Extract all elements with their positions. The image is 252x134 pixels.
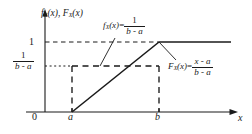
cdf-fn-argument: (x): [177, 61, 187, 71]
pdf-fn-argument: (x): [109, 20, 119, 30]
cdf-formula-annotation: FX(x)= x - a b - a: [168, 57, 213, 77]
pdf-fraction: 1 b - a: [124, 16, 145, 36]
pdf-formula-annotation: fX(x)= 1 b - a: [103, 16, 145, 36]
x-tick-label-b: b: [155, 112, 160, 122]
y-axis-title-f-arg: (x): [47, 8, 58, 18]
pdf-fraction-denominator: b - a: [124, 26, 145, 37]
pdf-formula-lhs: fX(x)=: [103, 21, 124, 31]
cdf-fn-name: F: [168, 61, 174, 71]
cdf-formula-lhs: FX(x)=: [168, 62, 192, 72]
y-tick-label-one: 1: [29, 37, 34, 47]
cdf-fraction: x - a b - a: [192, 57, 213, 77]
pdf-fraction-numerator: 1: [124, 16, 145, 26]
x-axis-title: x: [238, 113, 242, 123]
cdf-fraction-numerator: x - a: [192, 57, 213, 67]
uniform-distribution-figure: fX(x), FX(x) 1 1 b - a 0 a b x fX(x)= 1 …: [0, 0, 252, 134]
y-axis-title: fX(x), FX(x): [41, 9, 83, 19]
y-tick-frac-numerator: 1: [13, 51, 34, 61]
x-tick-label-a: a: [68, 112, 73, 122]
y-tick-label-frac: 1 b - a: [13, 51, 34, 71]
origin-label: 0: [32, 112, 37, 122]
cdf-ramp-segment: [72, 42, 159, 112]
y-axis-title-F-arg: (x): [72, 8, 83, 18]
y-tick-frac-stack: 1 b - a: [13, 51, 34, 71]
cdf-fraction-denominator: b - a: [192, 67, 213, 78]
y-tick-frac-denominator: b - a: [13, 61, 34, 72]
x-axis-arrowhead: [230, 109, 239, 115]
y-axis-title-F: F: [63, 8, 69, 18]
